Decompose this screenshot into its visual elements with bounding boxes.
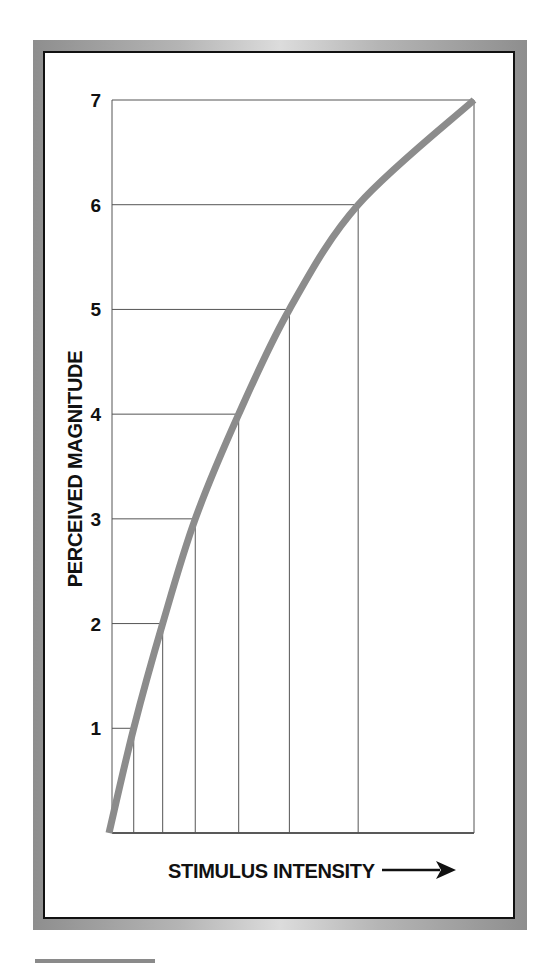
- chart-plot: 1234567 PERCEIVED MAGNITUDE STIMULUS INT…: [0, 0, 555, 963]
- y-axis-title: PERCEIVED MAGNITUDE: [64, 351, 86, 588]
- grid-lines: [112, 100, 474, 833]
- arrow-right-icon: [382, 861, 456, 879]
- y-tick-label: 7: [90, 90, 101, 111]
- y-tick-label: 1: [90, 718, 101, 739]
- y-tick-label: 2: [90, 614, 101, 635]
- y-tick-labels: 1234567: [90, 90, 101, 739]
- x-axis-title: STIMULUS INTENSITY: [168, 860, 376, 882]
- y-tick-label: 4: [90, 404, 101, 425]
- y-tick-label: 3: [90, 509, 101, 530]
- y-tick-label: 5: [90, 299, 101, 320]
- data-curve: [109, 100, 474, 833]
- footer-rule: [35, 959, 155, 963]
- y-tick-label: 6: [90, 195, 101, 216]
